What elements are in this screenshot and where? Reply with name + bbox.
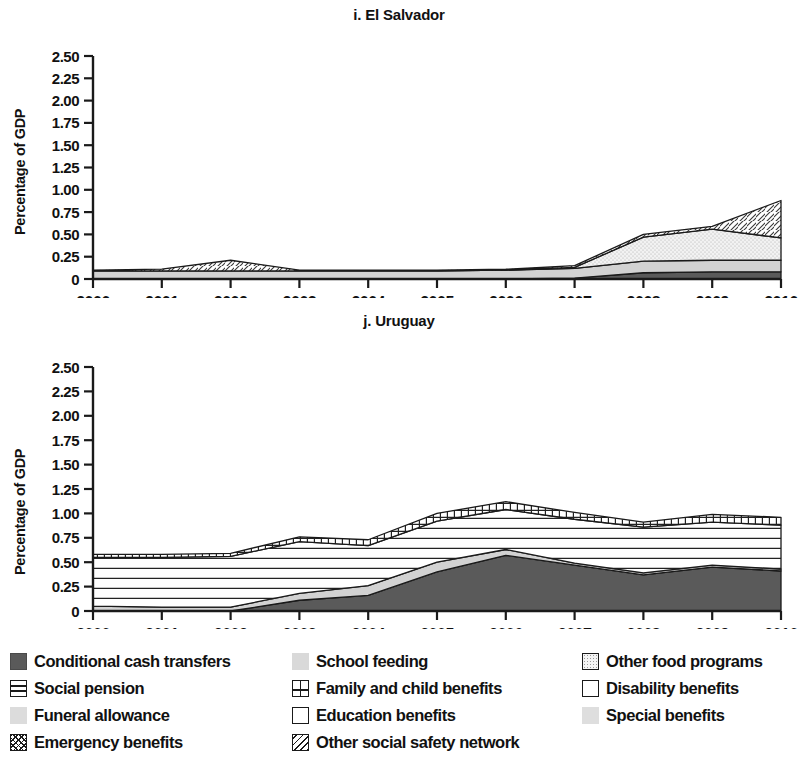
legend-label: Special benefits (606, 707, 724, 724)
legend-swatch-diagonal-icon (292, 734, 309, 751)
legend-swatch-empty-icon (582, 680, 599, 697)
chart-legend: Conditional cash transfersSchool feeding… (0, 648, 798, 756)
legend-row: Conditional cash transfersSchool feeding… (0, 648, 798, 675)
y-tick-label: 1.25 (52, 481, 79, 498)
y-tick-label: 0.75 (52, 529, 79, 546)
legend-item-social-pension[interactable]: Social pension (0, 680, 292, 697)
panel-uruguay: j. Uruguay Percentage of GDP 00.250.500.… (0, 310, 798, 640)
x-tick-label: 2002 (214, 626, 248, 629)
y-tick-label: 2.00 (52, 407, 79, 424)
x-tick-label: 2002 (214, 294, 248, 298)
legend-swatch-solid-dark-icon (10, 653, 27, 670)
y-tick-labels-el-salvador: 00.250.500.751.001.251.501.752.002.252.5… (52, 48, 79, 288)
legend-item-education-benefits[interactable]: Education benefits (292, 707, 582, 724)
y-tick-label: 2.25 (52, 70, 79, 87)
legend-swatch-solid-lighter2-icon (582, 707, 599, 724)
chart-svg-el-salvador: 00.250.500.751.001.251.501.752.002.252.5… (0, 23, 798, 298)
y-tick-label: 1.50 (52, 137, 79, 154)
x-tick-label: 2007 (558, 626, 592, 629)
plot-area-uruguay: 00.250.500.751.001.251.501.752.002.252.5… (0, 329, 798, 629)
y-tick-label: 0.25 (52, 578, 79, 595)
legend-item-special-benefits[interactable]: Special benefits (582, 707, 798, 724)
panel-el-salvador: i. El Salvador Percentage of GDP (0, 0, 798, 310)
x-tick-label: 2010 (764, 626, 798, 629)
y-tick-label: 2.50 (52, 48, 79, 65)
legend-row: Funeral allowanceEducation benefitsSpeci… (0, 702, 798, 729)
legend-label: Disability benefits (606, 680, 739, 697)
legend-item-school-feeding[interactable]: School feeding (292, 653, 582, 670)
legend-row: Social pensionFamily and child benefitsD… (0, 675, 798, 702)
x-tick-label: 2009 (695, 294, 729, 298)
x-tick-label: 2003 (283, 294, 317, 298)
legend-swatch-horizontal-lines-icon (10, 680, 27, 697)
x-tick-label: 2001 (145, 626, 179, 629)
x-tick-label: 2005 (420, 626, 454, 629)
legend-swatch-solid-light-icon (292, 653, 309, 670)
x-tick-label: 2008 (627, 626, 661, 629)
legend-item-other-food-programs[interactable]: Other food programs (582, 653, 798, 670)
series-areas-el-salvador (93, 201, 781, 279)
x-tick-label: 2000 (76, 294, 110, 298)
legend-swatch-empty-icon (292, 707, 309, 724)
x-tick-label: 2000 (76, 626, 110, 629)
chart-title-el-salvador: i. El Salvador (0, 0, 798, 23)
legend-row: Emergency benefitsOther social safety ne… (0, 729, 798, 756)
y-tick-label: 2.25 (52, 383, 79, 400)
x-tick-labels-uruguay: 2000200120022003200420052006200720082009… (76, 626, 798, 629)
x-tick-label: 2009 (695, 626, 729, 629)
legend-label: Education benefits (316, 707, 456, 724)
legend-item-conditional-cash-transfers[interactable]: Conditional cash transfers (0, 653, 292, 670)
legend-swatch-solid-lighter-icon (10, 707, 27, 724)
legend-label: Other social safety network (316, 734, 519, 751)
legend-label: Other food programs (606, 653, 762, 670)
legend-item-emergency-benefits[interactable]: Emergency benefits (0, 734, 292, 751)
y-tick-label: 1.25 (52, 159, 79, 176)
series-areas-uruguay (93, 502, 781, 611)
legend-item-family-and-child-benefits[interactable]: Family and child benefits (292, 680, 582, 697)
x-tick-label: 2006 (489, 294, 523, 298)
legend-item-disability-benefits[interactable]: Disability benefits (582, 680, 798, 697)
plot-area-el-salvador: 00.250.500.751.001.251.501.752.002.252.5… (0, 23, 798, 298)
x-tick-label: 2001 (145, 294, 179, 298)
y-tick-label: 0.25 (52, 248, 79, 265)
chart-title-uruguay: j. Uruguay (0, 310, 798, 329)
y-tick-label: 2.00 (52, 92, 79, 109)
legend-swatch-crosshatch-icon (10, 734, 27, 751)
legend-label: Social pension (34, 680, 144, 697)
y-tick-label: 0 (71, 603, 79, 620)
x-tick-label: 2010 (764, 294, 798, 298)
legend-label: Conditional cash transfers (34, 653, 230, 670)
x-tick-label: 2003 (283, 626, 317, 629)
legend-swatch-stipple-icon (582, 653, 599, 670)
y-tick-label: 2.50 (52, 359, 79, 376)
x-tick-label: 2004 (351, 626, 385, 629)
y-tick-label: 1.75 (52, 114, 79, 131)
x-tick-label: 2005 (420, 294, 454, 298)
x-tick-label: 2006 (489, 626, 523, 629)
y-tick-label: 0.50 (52, 226, 79, 243)
y-tick-label: 0.75 (52, 204, 79, 221)
y-tick-label: 0.50 (52, 554, 79, 571)
legend-label: Family and child benefits (316, 680, 502, 697)
y-tick-labels-uruguay: 00.250.500.751.001.251.501.752.002.252.5… (52, 359, 79, 620)
y-tick-label: 1.75 (52, 432, 79, 449)
chart-svg-uruguay: 00.250.500.751.001.251.501.752.002.252.5… (0, 329, 798, 629)
legend-item-funeral-allowance[interactable]: Funeral allowance (0, 707, 292, 724)
legend-item-other-social-safety-network[interactable]: Other social safety network (292, 734, 582, 751)
y-tick-label: 1.00 (52, 181, 79, 198)
y-tick-label: 0 (71, 271, 79, 288)
x-tick-label: 2007 (558, 294, 592, 298)
x-tick-labels-el-salvador: 2000200120022003200420052006200720082009… (76, 294, 798, 298)
y-tick-label: 1.50 (52, 456, 79, 473)
legend-label: Emergency benefits (34, 734, 183, 751)
x-tick-label: 2008 (627, 294, 661, 298)
x-tick-label: 2004 (351, 294, 385, 298)
y-tick-label: 1.00 (52, 505, 79, 522)
legend-label: Funeral allowance (34, 707, 169, 724)
legend-label: School feeding (316, 653, 428, 670)
legend-swatch-grid-icon (292, 680, 309, 697)
